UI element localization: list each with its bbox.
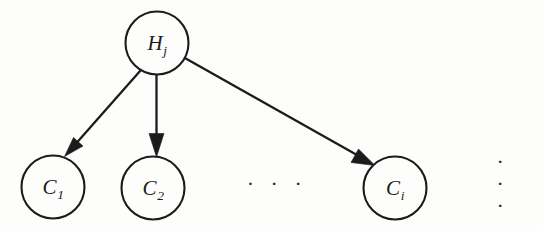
edge-hj-c2 [149,74,164,157]
node-ci-subscript: i [401,187,405,202]
node-c2-label: C2 [142,178,163,199]
node-c1-subscript: 1 [57,186,64,201]
node-ci-symbol: C [386,176,400,200]
node-hj-symbol: H [147,31,162,55]
node-hj-subscript: j [163,42,167,57]
node-ci-label: Ci [386,178,404,199]
edge-hj-c2-arrowhead [149,134,164,158]
edge-hj-c1-shaft [73,71,141,148]
edge-hj-ci-shaft [184,58,357,156]
diagram-canvas: Hj C1 C2 Ci · · · · · · [0,0,543,231]
ellipsis-middle: · · · [247,173,307,195]
node-c2-subscript: 2 [157,187,164,202]
edge-hj-ci-arrowhead [351,149,375,166]
node-c2-symbol: C [142,176,156,200]
ellipsis-right: · · · [497,151,528,217]
edge-hj-c1 [65,71,141,157]
node-c1-label: C1 [42,177,63,198]
graph-svg [0,0,543,231]
edge-hj-ci [184,58,375,166]
node-c1-symbol: C [42,175,56,199]
node-hj-label: Hj [147,33,166,54]
